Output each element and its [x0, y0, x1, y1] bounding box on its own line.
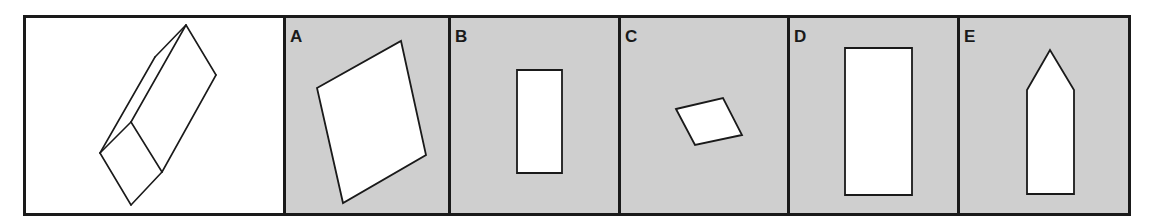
option-a[interactable]: A — [283, 18, 448, 213]
option-e[interactable]: E — [957, 18, 1128, 213]
option-label-b: B — [455, 28, 467, 45]
option-label-e: E — [964, 28, 975, 45]
option-label-d: D — [794, 28, 806, 45]
puzzle-frame: A B C D E — [23, 15, 1131, 216]
option-d[interactable]: D — [787, 18, 957, 213]
option-label-c: C — [625, 28, 637, 45]
option-label-a: A — [290, 28, 302, 45]
option-c[interactable]: C — [618, 18, 787, 213]
option-b[interactable]: B — [448, 18, 618, 213]
stimulus-panel — [26, 18, 283, 213]
